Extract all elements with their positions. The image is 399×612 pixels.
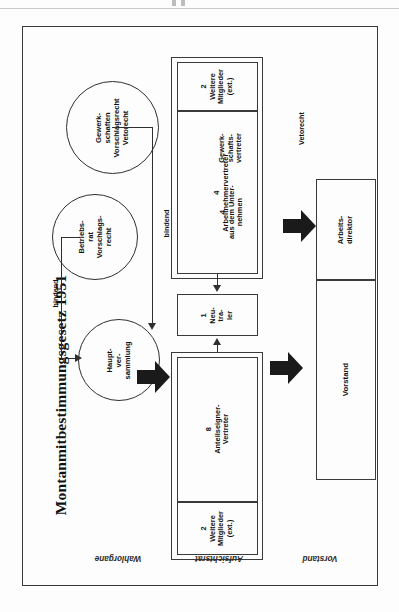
- box-aus-dem-unternehmen-label: 4 aus dem Unter- nehmen: [219, 168, 245, 256]
- block-arrow-hv-to-aufsichtsrat: [137, 361, 170, 393]
- section-label-aufsichtsrat: Aufsichtsrat: [184, 554, 254, 563]
- section-label-vorstand: Vorstand: [285, 554, 355, 563]
- block-arrow-to-vorstand: [270, 352, 303, 384]
- diagram-frame: Montanmitbestimmungsgesetz 1951 Gewerk- …: [22, 26, 378, 586]
- box-anteilseigner-vertreter-label: 8 Anteilseigner- Vertreter: [204, 405, 230, 454]
- block-arrow-to-arbeitsdirektor: [283, 210, 316, 242]
- box-vorstand[interactable]: Vorstand: [316, 280, 376, 480]
- circle-betriebsrat-label: Betriebs- rat Vorschlags- recht: [77, 216, 113, 259]
- circle-hauptversammlung-label: Haupt- ver- sammlung: [106, 341, 133, 379]
- edge-betr-v: [61, 237, 62, 359]
- scan-artifact-mark: [181, 0, 185, 6]
- box-anteilseigner-vertreter[interactable]: 8 Anteilseigner- Vertreter: [177, 357, 258, 502]
- edge-label-vetorecht: Vetorecht: [297, 93, 306, 165]
- box-gewerkschaftsvertreter-label: Gewerk- schafts- vertreter: [218, 117, 244, 179]
- box-arbeitsdirektor-label: Arbeits- direktor: [337, 215, 355, 244]
- edge-ae-to-neutral-arrowhead: [213, 338, 221, 345]
- edge-betr-h1: [62, 237, 80, 238]
- box-arbeitsdirektor[interactable]: Arbeits- direktor: [316, 179, 376, 280]
- box-vorstand-label: Vorstand: [341, 363, 350, 396]
- edge-an-to-neutral-arrowhead: [213, 285, 221, 292]
- scan-artifact-line: [0, 8, 399, 9]
- arbeitnehmer-divider: [207, 111, 258, 112]
- box-weitere-mitglieder-oben[interactable]: 2 Weitere Mitglieder (ext.): [177, 62, 258, 111]
- box-neutraler-label: 1 Neu- tra- ler: [200, 307, 235, 323]
- scan-artifact-mark: [172, 0, 176, 6]
- edge-gewerk-arrowhead: [148, 323, 156, 330]
- edge-gewerk-h1: [112, 127, 153, 128]
- edge-label-bindend-betriebsrat: bindend: [51, 271, 60, 317]
- edge-betr-arrowhead: [75, 354, 82, 362]
- edge-label-bindend-gewerkschaften: bindend: [162, 201, 171, 247]
- section-label-wahlorgane: Wahlorgane: [83, 554, 153, 563]
- box-neutraler[interactable]: 1 Neu- tra- ler: [177, 294, 258, 336]
- edge-gewerk-v: [152, 127, 153, 325]
- box-weitere-mitglieder-oben-label: 2 Weitere Mitglieder (ext.): [200, 69, 235, 104]
- box-weitere-mitglieder-unten[interactable]: 2 Weitere Mitglieder (ext.): [177, 502, 258, 555]
- figure-page: Montanmitbestimmungsgesetz 1951 Gewerk- …: [0, 0, 399, 612]
- box-weitere-mitglieder-unten-label: 2 Weitere Mitglieder (ext.): [200, 511, 235, 546]
